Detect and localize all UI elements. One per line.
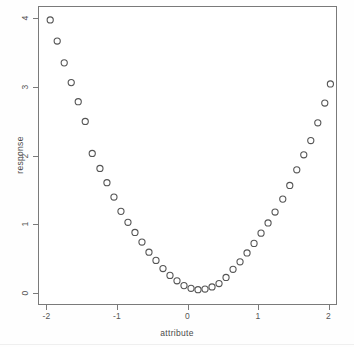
data-point: [287, 182, 293, 188]
data-point: [251, 240, 257, 246]
data-point: [132, 229, 138, 235]
data-point: [125, 219, 131, 225]
data-point: [315, 120, 321, 126]
data-point: [308, 137, 314, 143]
data-points-layer: [39, 7, 336, 304]
y-tick-label: 4: [20, 13, 30, 23]
y-axis-title: response: [15, 136, 25, 173]
data-point: [280, 196, 286, 202]
x-tick-label: -1: [113, 311, 121, 321]
data-point: [322, 100, 328, 106]
data-point: [153, 257, 159, 263]
data-point: [89, 150, 95, 156]
data-point: [272, 209, 278, 215]
x-tick-label: 2: [326, 311, 331, 321]
data-point: [118, 208, 124, 214]
data-point: [54, 38, 60, 44]
data-point: [301, 152, 307, 158]
data-point: [230, 266, 236, 272]
data-point: [209, 284, 215, 290]
data-point: [82, 118, 88, 124]
data-point: [97, 165, 103, 171]
data-point: [139, 239, 145, 245]
data-point: [47, 17, 53, 23]
y-tick-mark: [33, 224, 38, 225]
data-point: [146, 249, 152, 255]
x-tick-mark: [258, 305, 259, 310]
x-tick-label: 0: [185, 311, 190, 321]
data-point: [202, 286, 208, 292]
data-point: [174, 278, 180, 284]
data-point: [327, 81, 333, 87]
data-point: [258, 230, 264, 236]
y-tick-label: 0: [20, 288, 30, 298]
y-tick-mark: [33, 293, 38, 294]
x-tick-mark: [329, 305, 330, 310]
data-point: [216, 280, 222, 286]
data-point: [167, 272, 173, 278]
data-point: [104, 180, 110, 186]
x-tick-label: -2: [42, 311, 50, 321]
data-point: [265, 220, 271, 226]
data-point: [237, 259, 243, 265]
x-tick-mark: [188, 305, 189, 310]
plot-frame: [38, 6, 337, 305]
data-point: [111, 194, 117, 200]
data-point: [75, 99, 81, 105]
data-point: [181, 283, 187, 289]
data-point: [294, 167, 300, 173]
x-axis-title: attribute: [0, 328, 354, 338]
data-point: [61, 60, 67, 66]
data-point: [195, 287, 201, 293]
y-tick-label: 3: [20, 82, 30, 92]
y-tick-mark: [33, 87, 38, 88]
x-tick-label: 1: [256, 311, 261, 321]
data-point: [160, 265, 166, 271]
y-tick-mark: [33, 156, 38, 157]
data-point: [68, 80, 74, 86]
y-tick-label: 1: [20, 219, 30, 229]
data-point: [223, 274, 229, 280]
scan-artifact-line: [0, 344, 354, 345]
x-tick-mark: [46, 305, 47, 310]
scatter-plot-figure: -2-1012 01234 attribute response: [0, 0, 354, 347]
y-tick-mark: [33, 18, 38, 19]
data-point: [188, 285, 194, 291]
data-point: [244, 250, 250, 256]
x-tick-mark: [117, 305, 118, 310]
